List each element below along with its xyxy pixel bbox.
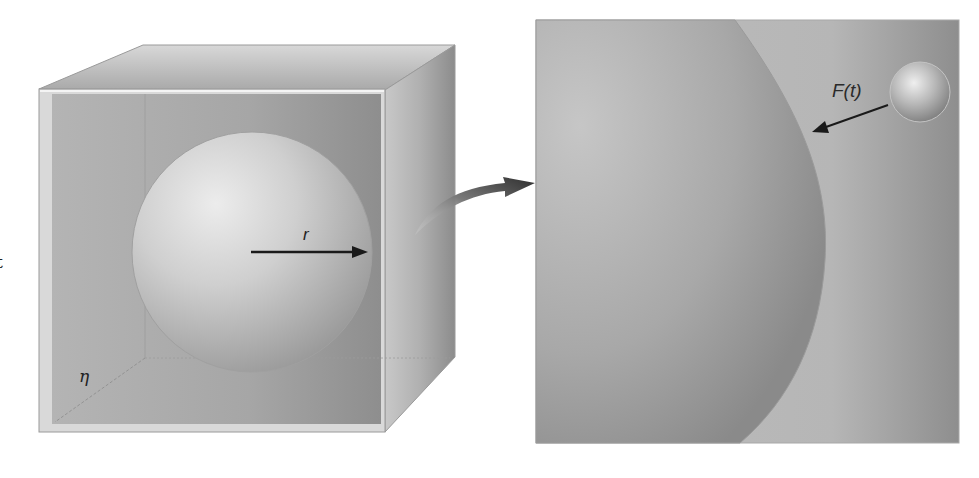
particle-sphere <box>890 62 950 122</box>
viscosity-label: η <box>79 366 89 386</box>
diagram-canvas <box>0 0 979 478</box>
edge-text-fragment: t <box>0 252 3 272</box>
cube-top-face <box>39 45 455 90</box>
radius-label: r <box>303 225 309 245</box>
cube-side-face <box>385 45 455 432</box>
force-label: F(t) <box>832 80 862 102</box>
